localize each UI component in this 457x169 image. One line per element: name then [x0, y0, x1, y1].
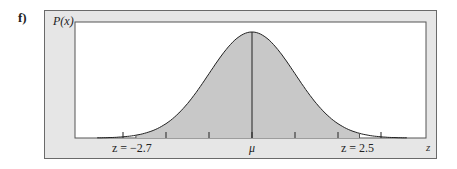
left-bound-label: z = −2.7 [112, 141, 152, 156]
right-bound-label: z = 2.5 [341, 141, 374, 156]
mean-label: μ [249, 141, 255, 156]
normal-curve-plot [0, 0, 457, 169]
x-axis-label: z [426, 141, 430, 153]
